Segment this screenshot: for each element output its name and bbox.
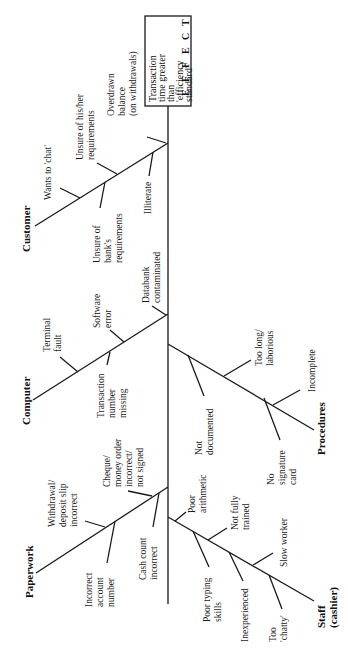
cause-label: Inexperienced bbox=[240, 588, 250, 642]
cause-label: Poor bbox=[187, 494, 197, 513]
cause-label: account bbox=[95, 577, 105, 607]
cause-label: money order bbox=[113, 438, 123, 487]
cause-label: missing bbox=[118, 388, 128, 418]
cause-label: No bbox=[266, 473, 276, 485]
effect-box: Transaction time greater than 'efficienc… bbox=[145, 16, 194, 106]
cause-label: Cheque/ bbox=[102, 455, 112, 487]
cause-label: Software bbox=[92, 294, 102, 328]
category-label: Paperwork bbox=[23, 545, 35, 598]
category-label: Customer bbox=[20, 205, 32, 252]
cause-label: number bbox=[106, 577, 116, 607]
effect-letter: E bbox=[180, 89, 191, 96]
cause-label: number bbox=[107, 388, 117, 418]
cause-label: Withdrawal/ bbox=[47, 480, 57, 527]
cause-label: Incorrect bbox=[84, 572, 94, 607]
cause-label: signature bbox=[277, 450, 287, 485]
cause-label: Databank bbox=[141, 266, 151, 303]
cause-label: not signed bbox=[135, 447, 145, 487]
cause-label: Not fully bbox=[230, 495, 240, 530]
cause-label: Too long/ bbox=[254, 329, 264, 366]
cause-label: Unsure of his/her bbox=[75, 93, 85, 160]
cause-label: documented bbox=[205, 408, 215, 455]
cause-label: Slow worker bbox=[279, 517, 289, 567]
cause-label: deposit slip bbox=[58, 483, 68, 527]
category-computer: Computer Terminal fault Software error D… bbox=[20, 252, 168, 425]
effect-letter: F bbox=[180, 76, 191, 82]
cause-label: card bbox=[288, 468, 298, 485]
cause-label: Terminal bbox=[42, 317, 52, 352]
cause-label: incorrect bbox=[149, 546, 159, 580]
cause-label: arithmetic bbox=[198, 474, 208, 513]
category-procedures: Procedures Not documented Too long/ labo… bbox=[168, 329, 327, 485]
category-staff: Staff (cashier) Poor arithmetic Not full… bbox=[168, 474, 340, 642]
cause-label: (on withdrawals) bbox=[128, 51, 139, 116]
cause-label: error bbox=[103, 309, 113, 328]
cause-label: requirements bbox=[114, 213, 124, 263]
category-subtitle: (cashier) bbox=[327, 587, 340, 628]
cause-label: Illiterate bbox=[143, 182, 153, 214]
cause-label: trained bbox=[241, 503, 251, 530]
effect-letter: C bbox=[180, 33, 191, 40]
effect-letter: F bbox=[180, 62, 191, 68]
category-label: Staff bbox=[315, 605, 327, 628]
cause-label: Poor typing bbox=[202, 577, 212, 622]
effect-letter: E bbox=[180, 47, 191, 54]
cause-label: 'chatty' bbox=[279, 615, 289, 642]
cause-label: Unsure of bbox=[92, 224, 102, 263]
cause-label: Cash count bbox=[138, 537, 148, 580]
effect-letter: T bbox=[180, 19, 191, 26]
fishbone-diagram: Transaction time greater than 'efficienc… bbox=[0, 0, 348, 668]
cause-label: fault bbox=[53, 334, 63, 352]
cause-label: laborious bbox=[265, 330, 275, 366]
cause-label: incorrect bbox=[69, 493, 79, 527]
cause-label: contaminated bbox=[152, 252, 162, 303]
cause-label: Incomplete bbox=[307, 349, 317, 392]
cause-label: Not bbox=[194, 440, 204, 455]
cause-label: Too bbox=[268, 627, 278, 642]
cause-label: Transaction bbox=[96, 373, 106, 418]
cause-label: balance bbox=[117, 87, 127, 116]
category-paperwork: Paperwork Withdrawal/ deposit slip incor… bbox=[23, 438, 168, 607]
category-label: Procedures bbox=[315, 402, 327, 455]
cause-label: skills bbox=[213, 602, 223, 622]
cause-label: Wants to 'chat' bbox=[43, 145, 53, 200]
category-label: Computer bbox=[20, 377, 32, 425]
cause-label: Overdrawn bbox=[106, 73, 116, 116]
cause-label: bank's bbox=[103, 239, 113, 263]
cause-label: incorrect/ bbox=[124, 450, 134, 487]
cause-label: requirements bbox=[86, 110, 96, 160]
